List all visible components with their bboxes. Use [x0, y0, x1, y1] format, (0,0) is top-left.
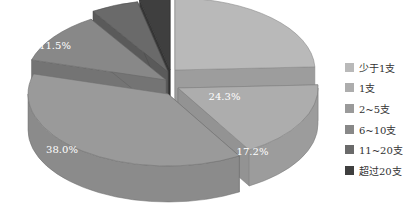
legend-swatch	[345, 63, 354, 72]
legend-item: 超过20支	[345, 160, 403, 181]
legend-item: 2~5支	[345, 98, 403, 119]
legend-swatch	[345, 83, 354, 92]
legend-swatch	[345, 166, 354, 175]
legend-label: 超过20支	[359, 163, 402, 178]
legend: 少于1支 1支 2~5支 6~10支 11~20支 超过20支	[345, 57, 403, 181]
legend-swatch	[345, 104, 354, 113]
legend-item: 6~10支	[345, 119, 403, 140]
legend-item: 11~20支	[345, 139, 403, 160]
legend-label: 11~20支	[359, 142, 403, 157]
slice-label: 24.3%	[209, 91, 241, 102]
legend-label: 1支	[359, 80, 375, 95]
slice-label: 17.2%	[237, 146, 269, 157]
slice-label: 11.5%	[39, 40, 71, 51]
legend-label: 少于1支	[359, 60, 395, 75]
legend-swatch	[345, 125, 354, 134]
slice-label: 38.0%	[46, 144, 78, 155]
legend-swatch	[345, 145, 354, 154]
legend-item: 少于1支	[345, 57, 403, 78]
slice-label: 3.5%	[32, 18, 57, 29]
legend-item: 1支	[345, 78, 403, 99]
legend-label: 2~5支	[359, 101, 390, 116]
legend-label: 6~10支	[359, 122, 396, 137]
pie-slice	[175, 0, 315, 70]
